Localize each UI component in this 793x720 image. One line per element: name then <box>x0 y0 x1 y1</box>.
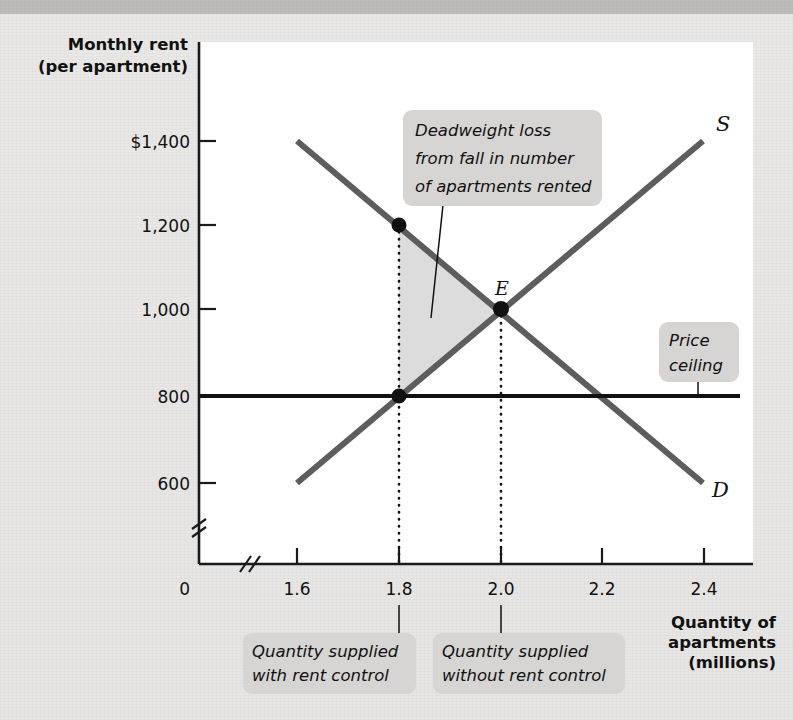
equilibrium-point-label: E <box>494 277 509 299</box>
x-tick-label-2p4: 2.4 <box>690 579 717 599</box>
x-axis-title-line2: apartments <box>668 633 776 652</box>
price-ceiling-callout-line2: ceiling <box>669 356 723 375</box>
origin-label: 0 <box>179 579 190 599</box>
x-tick-label-1p8: 1.8 <box>385 579 412 599</box>
deadweight-callout-line1: Deadweight loss <box>415 121 552 140</box>
x-tick-label-2p0: 2.0 <box>487 579 514 599</box>
x-tick-label-1p6: 1.6 <box>283 579 310 599</box>
x-axis-title-line1: Quantity of <box>671 613 777 632</box>
y-tick-label-1000: 1,000 <box>141 300 190 320</box>
qty-without-control-line1: Quantity supplied <box>442 642 589 661</box>
point-demand-1p8 <box>392 218 407 233</box>
qty-without-control-line2: without rent control <box>442 666 606 685</box>
point-equilibrium-E <box>493 301 509 317</box>
qty-with-control-line2: with rent control <box>252 666 389 685</box>
y-axis-title-line2: (per apartment) <box>38 57 188 76</box>
point-supply-1p8 <box>392 389 407 404</box>
y-axis-title-line1: Monthly rent <box>68 35 188 54</box>
supply-curve-label: S <box>716 112 730 136</box>
y-tick-label-1400: $1,400 <box>131 132 190 152</box>
x-axis-title-line3: (millions) <box>688 653 776 672</box>
qty-with-control-line1: Quantity supplied <box>252 642 399 661</box>
y-tick-label-800: 800 <box>158 387 190 407</box>
price-ceiling-callout-line1: Price <box>669 331 710 350</box>
deadweight-callout-line3: of apartments rented <box>415 177 592 196</box>
demand-curve-label: D <box>711 478 729 502</box>
y-tick-label-600: 600 <box>158 474 190 494</box>
deadweight-callout-line2: from fall in number <box>415 149 575 168</box>
y-tick-label-1200: 1,200 <box>141 216 190 236</box>
x-tick-label-2p2: 2.2 <box>588 579 615 599</box>
rent-control-figure: $1,400 1,200 1,000 800 600 0 1.6 1.8 2.0… <box>0 0 793 720</box>
